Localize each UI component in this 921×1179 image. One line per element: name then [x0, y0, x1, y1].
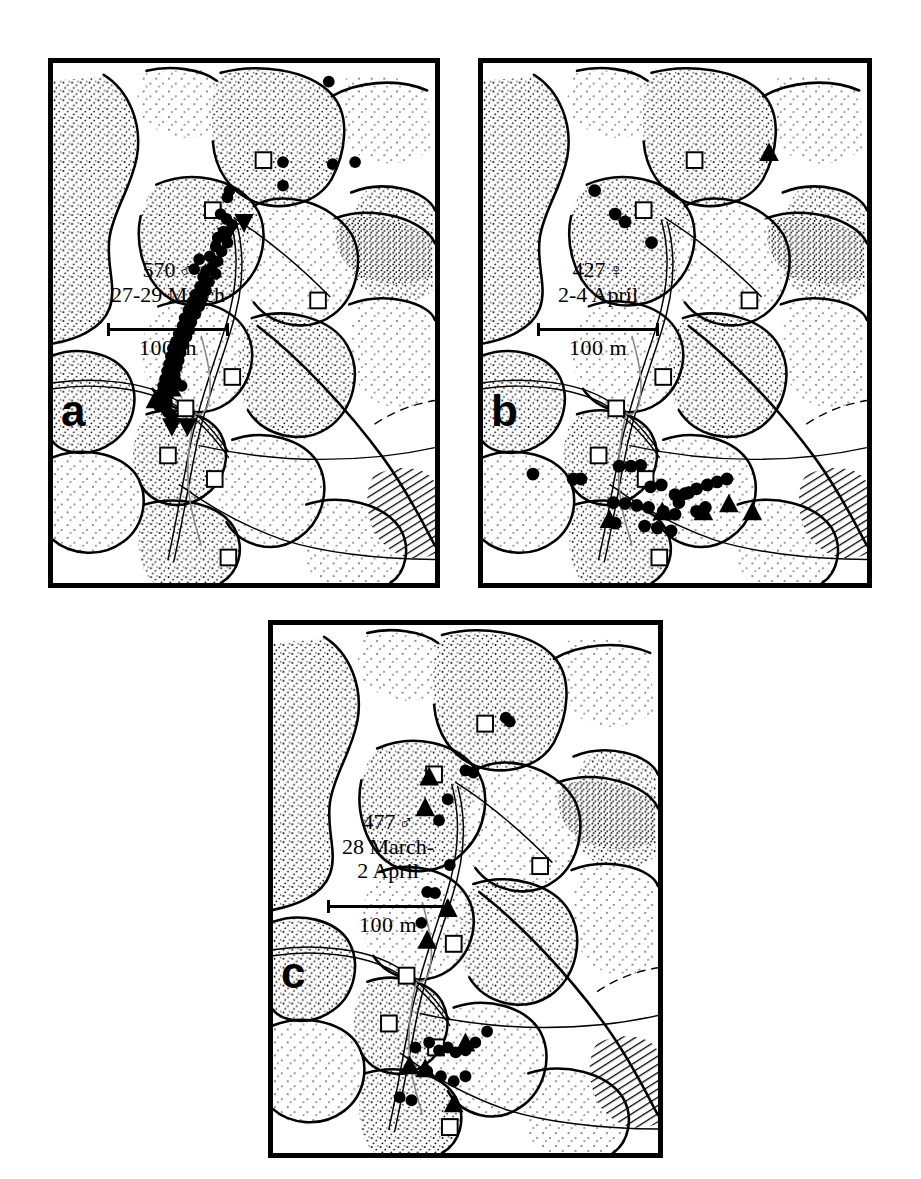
date-range-c: 28 March- — [325, 835, 451, 860]
sex-symbol-a: ♂ — [176, 259, 194, 281]
date-range-b: 2-4 April — [535, 283, 661, 308]
scale-bar-graphic-a — [105, 323, 231, 335]
scale-bar-graphic-c — [325, 900, 451, 912]
scale-bar-c: 100 m — [325, 900, 451, 938]
panel-letter-b: b — [491, 389, 518, 433]
scale-bar-b: 100 m — [535, 323, 661, 361]
animal-id-a: 570♂ — [105, 258, 231, 283]
scale-bar-label-b: 100 m — [535, 336, 661, 361]
annotation-block-b: 427♀ 2-4 April 100 m — [535, 258, 661, 361]
scale-bar-a: 100 m — [105, 323, 231, 361]
scale-bar-label-c: 100 m — [325, 913, 451, 938]
scale-bar-label-a: 100 m — [105, 336, 231, 361]
map-panel-a: 570♂ 27-29 March 100 m a — [48, 58, 440, 588]
map-panel-c: 477♂ 28 March- 2 April 100 m c — [268, 620, 663, 1158]
running-header — [0, 0, 921, 6]
animal-id-c: 477♂ — [325, 810, 451, 835]
date-range-c-line2: 2 April — [325, 859, 451, 884]
map-panel-b: 427♀ 2-4 April 100 m b — [478, 58, 872, 588]
annotation-block-c: 477♂ 28 March- 2 April 100 m — [325, 810, 451, 938]
sex-symbol-b: ♀ — [606, 259, 624, 281]
annotation-block-a: 570♂ 27-29 March 100 m — [105, 258, 231, 361]
animal-id-b: 427♀ — [535, 258, 661, 283]
panel-letter-c: c — [281, 951, 305, 995]
date-range-a: 27-29 March — [105, 283, 231, 308]
panel-letter-a: a — [61, 389, 85, 433]
scale-bar-graphic-b — [535, 323, 661, 335]
sex-symbol-c: ♂ — [396, 811, 414, 833]
